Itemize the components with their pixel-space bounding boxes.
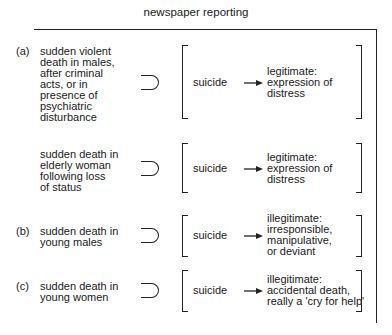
superset-symbol — [141, 161, 159, 176]
arrow-icon — [244, 286, 264, 296]
arrow-icon — [244, 78, 264, 88]
left-bracket — [182, 45, 188, 119]
left-bracket — [182, 143, 188, 193]
arrow-icon — [244, 231, 264, 241]
row-label: (b) — [16, 226, 29, 237]
frame-top-line — [34, 29, 377, 30]
right-bracket — [356, 143, 362, 193]
verdict-text: suicide — [193, 77, 227, 88]
verdict-text: suicide — [193, 285, 227, 296]
left-bracket — [182, 215, 188, 257]
condition-text: sudden death in young women — [40, 281, 118, 303]
verdict-text: suicide — [193, 230, 227, 241]
result-text: illegitimate: irresponsible, manipulativ… — [267, 213, 332, 257]
verdict-text: suicide — [193, 163, 227, 174]
superset-symbol — [141, 75, 159, 90]
result-text: legitimate: expression of distress — [267, 66, 332, 99]
arrow-icon — [244, 164, 264, 174]
row-label: (c) — [16, 281, 29, 292]
diagram-title: newspaper reporting — [0, 7, 392, 18]
row-label: (a) — [16, 46, 29, 57]
result-text: illegitimate: accidental death, really a… — [267, 274, 364, 307]
left-bracket — [182, 270, 188, 312]
right-bracket — [356, 270, 362, 312]
superset-symbol — [141, 283, 159, 298]
right-bracket — [356, 45, 362, 119]
right-bracket — [356, 215, 362, 257]
condition-text: sudden violent death in males, after cri… — [40, 46, 115, 123]
superset-symbol — [141, 228, 159, 243]
condition-text: sudden death in elderly woman following … — [40, 149, 118, 193]
frame-right-line — [376, 29, 377, 323]
result-text: legitimate: expression of distress — [267, 152, 332, 185]
condition-text: sudden death in young males — [40, 226, 118, 248]
